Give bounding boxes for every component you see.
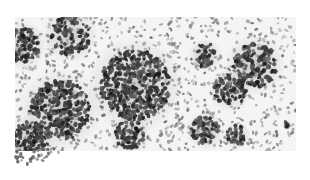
histology-image xyxy=(0,0,310,180)
